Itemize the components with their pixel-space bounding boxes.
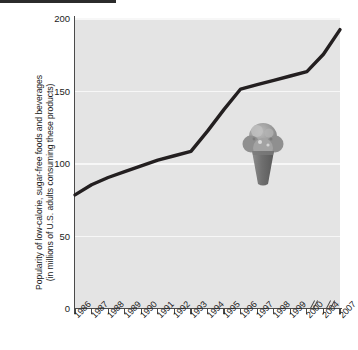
ice-cream-cone-icon xyxy=(240,120,286,186)
